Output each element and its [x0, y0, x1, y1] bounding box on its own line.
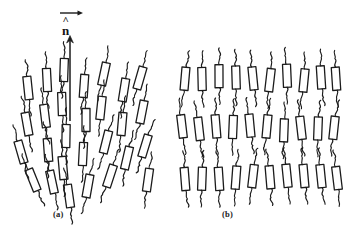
director-symbol: n — [62, 24, 69, 37]
panel-a-label: (a) — [53, 209, 64, 219]
panel-b-label: (b) — [222, 209, 233, 219]
director-label: ^ n — [62, 18, 69, 37]
figure-canvas — [0, 0, 348, 233]
liquid-crystal-figure: ^ n (a) (b) — [0, 0, 348, 233]
